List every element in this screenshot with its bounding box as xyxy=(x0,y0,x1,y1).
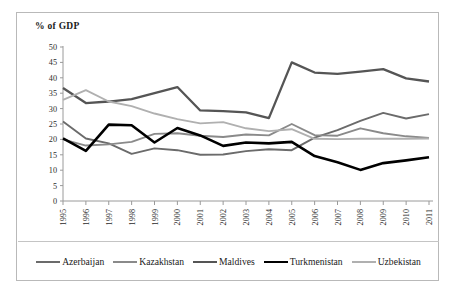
series-line-maldives xyxy=(63,62,429,118)
legend-item-azerbaijan[interactable]: Azerbaijan xyxy=(36,256,104,267)
x-tick-label: 1996 xyxy=(82,209,91,225)
x-tick-label: 1997 xyxy=(105,209,114,225)
x-tick-label: 2009 xyxy=(379,209,388,225)
x-tick-label: 2008 xyxy=(356,209,365,225)
legend-label: Kazakhstan xyxy=(139,256,184,267)
legend-item-maldives[interactable]: Maldives xyxy=(193,256,255,267)
x-tick-label: 2007 xyxy=(334,209,343,225)
y-tick-label: 5 xyxy=(53,182,57,191)
y-axis-labels: 50454035302520151050 xyxy=(49,43,57,206)
legend-swatch-uzbekistan xyxy=(352,261,376,263)
legend-item-turkmenistan[interactable]: Turkmenistan xyxy=(264,256,343,267)
x-tick-label: 2003 xyxy=(242,209,251,225)
x-tick-label: 1995 xyxy=(59,209,68,225)
y-tick-label: 25 xyxy=(49,120,57,129)
y-tick-label: 30 xyxy=(49,105,57,114)
x-axis-ticks xyxy=(63,201,429,205)
legend-item-uzbekistan[interactable]: Uzbekistan xyxy=(352,256,421,267)
legend-swatch-turkmenistan xyxy=(264,261,288,263)
x-tick-label: 2011 xyxy=(425,209,434,225)
x-tick-label: 2010 xyxy=(402,209,411,225)
x-axis-labels: 1995199619971998199920002001200220032004… xyxy=(59,209,434,225)
legend-label: Maldives xyxy=(219,256,255,267)
x-tick-label: 2000 xyxy=(173,209,182,225)
x-tick-label: 2001 xyxy=(196,209,205,225)
x-tick-label: 1998 xyxy=(128,209,137,225)
y-tick-label: 50 xyxy=(49,43,57,52)
y-tick-label: 15 xyxy=(49,151,57,160)
y-tick-label: 10 xyxy=(49,166,57,175)
chart-frame: % of GDP 50454035302520151050 1995199619… xyxy=(16,12,439,281)
legend-label: Azerbaijan xyxy=(62,256,104,267)
y-tick-label: 40 xyxy=(49,74,57,83)
legend-item-kazakhstan[interactable]: Kazakhstan xyxy=(113,256,184,267)
data-series-group xyxy=(63,62,429,169)
x-tick-label: 2006 xyxy=(311,209,320,225)
legend-label: Uzbekistan xyxy=(378,256,421,267)
y-tick-label: 20 xyxy=(49,135,57,144)
legend-label: Turkmenistan xyxy=(290,256,343,267)
chart-legend: AzerbaijanKazakhstanMaldivesTurkmenistan… xyxy=(18,241,439,281)
line-chart: 50454035302520151050 1995199619971998199… xyxy=(17,13,440,243)
x-tick-label: 2002 xyxy=(219,209,228,225)
legend-swatch-kazakhstan xyxy=(113,261,137,263)
y-tick-label: 0 xyxy=(53,197,57,206)
legend-swatch-maldives xyxy=(193,261,217,263)
x-tick-label: 1999 xyxy=(151,209,160,225)
y-tick-label: 35 xyxy=(49,89,57,98)
y-tick-label: 45 xyxy=(49,58,57,67)
legend-swatch-azerbaijan xyxy=(36,261,60,263)
x-tick-label: 2005 xyxy=(288,209,297,225)
x-tick-label: 2004 xyxy=(265,209,274,225)
